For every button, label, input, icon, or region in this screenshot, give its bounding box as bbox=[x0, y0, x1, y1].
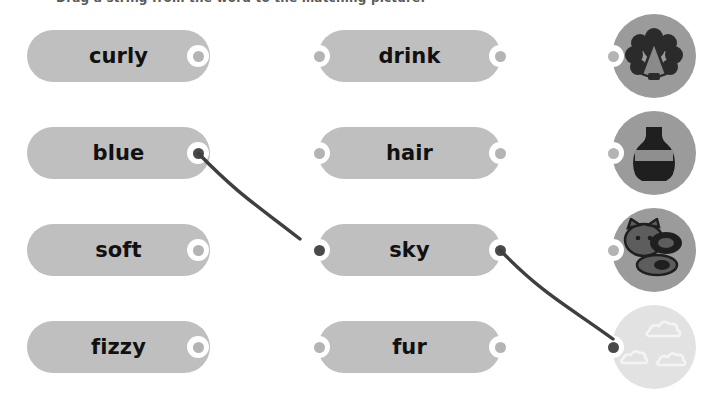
clouds-sky-icon bbox=[619, 315, 689, 379]
word-pill-blue[interactable]: blue bbox=[27, 127, 210, 179]
word-pill-label: hair bbox=[386, 143, 433, 164]
picture-circle-clouds-sky[interactable] bbox=[612, 305, 696, 389]
connector-knob-picture-clouds-sky[interactable] bbox=[602, 336, 624, 358]
word-pill-label: fizzy bbox=[91, 337, 146, 358]
connector-knob-blue[interactable] bbox=[187, 142, 209, 164]
instruction-text: Drag a string from the word to the match… bbox=[56, 0, 425, 5]
connector-knob-picture-curly-hair[interactable] bbox=[602, 45, 624, 67]
connector-knob-fur-left[interactable] bbox=[308, 336, 330, 358]
word-pill-sky[interactable]: sky bbox=[318, 224, 501, 276]
picture-circle-bottle[interactable] bbox=[612, 111, 696, 195]
word-pill-label: fur bbox=[392, 337, 427, 358]
picture-circle-curly-hair[interactable] bbox=[612, 14, 696, 98]
word-pill-label: drink bbox=[378, 46, 440, 67]
connector-knob-picture-bottle[interactable] bbox=[602, 142, 624, 164]
connector-knob-sky-right[interactable] bbox=[489, 239, 511, 261]
word-pill-fizzy[interactable]: fizzy bbox=[27, 321, 210, 373]
bottle-icon bbox=[624, 121, 684, 185]
word-pill-soft[interactable]: soft bbox=[27, 224, 210, 276]
word-pill-drink[interactable]: drink bbox=[318, 30, 501, 82]
word-pill-hair[interactable]: hair bbox=[318, 127, 501, 179]
word-pill-curly[interactable]: curly bbox=[27, 30, 210, 82]
connector-knob-drink-left[interactable] bbox=[308, 45, 330, 67]
connector-knob-picture-animal-fur[interactable] bbox=[602, 239, 624, 261]
curly-hair-icon bbox=[622, 24, 686, 88]
word-pill-label: curly bbox=[89, 46, 148, 67]
wire-blue-to-sky bbox=[198, 153, 300, 239]
word-pill-label: soft bbox=[95, 240, 142, 261]
connector-knob-hair-right[interactable] bbox=[489, 142, 511, 164]
word-pill-label: sky bbox=[389, 240, 429, 261]
connector-knob-fur-right[interactable] bbox=[489, 336, 511, 358]
connector-knob-drink-right[interactable] bbox=[489, 45, 511, 67]
wire-sky-to-clouds bbox=[500, 250, 613, 339]
picture-circle-animal-fur[interactable] bbox=[612, 208, 696, 292]
matching-activity: Drag a string from the word to the match… bbox=[0, 0, 716, 397]
animal-fur-icon bbox=[619, 218, 689, 282]
word-pill-label: blue bbox=[93, 143, 145, 164]
connector-knob-fizzy[interactable] bbox=[187, 336, 209, 358]
connector-knob-soft[interactable] bbox=[187, 239, 209, 261]
word-pill-fur[interactable]: fur bbox=[318, 321, 501, 373]
connector-knob-hair-left[interactable] bbox=[308, 142, 330, 164]
connector-knob-sky-left[interactable] bbox=[308, 239, 330, 261]
connector-knob-curly[interactable] bbox=[187, 45, 209, 67]
